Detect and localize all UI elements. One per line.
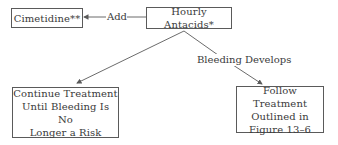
node-continue-treatment: Continue Treatment Until Bleeding Is No … [12,87,119,138]
node-continue-line-2: Until Bleeding Is No [13,100,118,126]
edge-label-add: Add [107,11,127,23]
node-follow-line-1: Follow Treatment [237,84,323,110]
node-follow-line-2: Outlined in [251,110,309,123]
node-cimetidine-label: Cimetidine** [14,12,81,25]
node-antacids-label: Hourly Antacids* [147,5,231,31]
node-continue-line-3: Longer a Risk [30,126,102,139]
node-continue-line-1: Continue Treatment [13,87,117,100]
line-to-bleeding-label [184,31,218,55]
edge-label-bleeding-develops: Bleeding Develops [197,54,291,66]
node-follow-treatment: Follow Treatment Outlined in Figure 13–6 [236,86,324,133]
node-follow-line-3: Figure 13–6 [249,123,311,136]
node-hourly-antacids: Hourly Antacids* [146,7,232,29]
arrow-to-follow [233,65,262,84]
arrow-to-continue [77,31,184,83]
node-cimetidine: Cimetidine** [11,8,83,28]
